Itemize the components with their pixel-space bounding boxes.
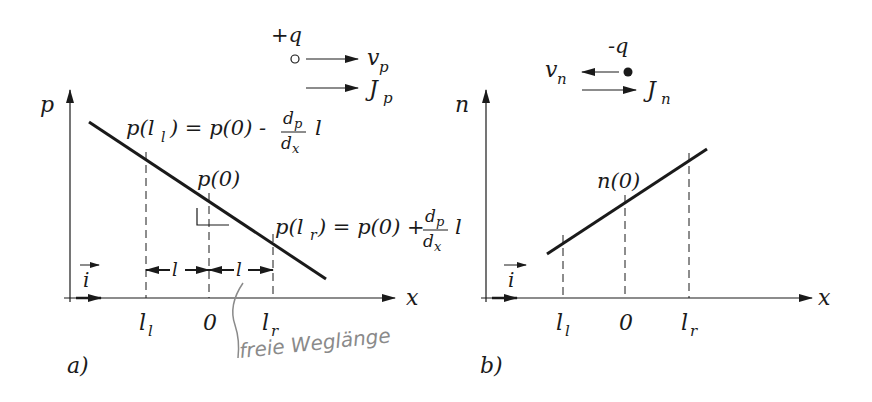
x-axis-label-a: x xyxy=(406,285,419,310)
svg-text:) = p(0) +: ) = p(0) + xyxy=(317,215,425,239)
panel-a: p x i l l l l 0 l xyxy=(40,23,462,378)
equation-right: p(l r ) = p(0) + d p d x l xyxy=(275,206,462,254)
svg-text:d: d xyxy=(423,231,434,251)
svg-text:l: l xyxy=(681,310,688,335)
hole-carrier: +q v p J p xyxy=(271,23,393,107)
hole-icon xyxy=(291,55,299,63)
electron-carrier: -q v n J n xyxy=(545,34,671,108)
svg-text:p: p xyxy=(379,58,389,76)
svg-text:) = p(0) -: ) = p(0) - xyxy=(169,116,266,140)
svg-text:l: l xyxy=(172,259,178,280)
svg-text:n: n xyxy=(557,70,567,88)
svg-text:n: n xyxy=(661,90,671,108)
svg-text:p: p xyxy=(383,89,393,107)
handwritten-note: freie Weglänge xyxy=(233,283,392,363)
p-axis-label: p xyxy=(40,92,54,117)
equation-left: p(l l ) = p(0) - d p d x l xyxy=(126,108,322,156)
svg-text:l: l xyxy=(262,310,269,335)
tick-ll-b: l l xyxy=(556,310,570,340)
svg-text:J: J xyxy=(643,77,657,102)
svg-text:p(l: p(l xyxy=(275,215,303,239)
svg-text:d: d xyxy=(425,206,436,226)
charge-label-plus: +q xyxy=(271,23,302,47)
x-axis-label-b: x xyxy=(818,285,831,310)
caption-b: b) xyxy=(480,353,503,378)
svg-text:l: l xyxy=(455,215,462,239)
tick-0-a: 0 xyxy=(203,310,217,335)
unit-vector-label-b: i xyxy=(508,268,514,292)
svg-text:l: l xyxy=(139,310,146,335)
svg-text:p(l: p(l xyxy=(126,116,154,140)
svg-text:r: r xyxy=(690,322,698,340)
svg-text:d: d xyxy=(283,108,294,128)
svg-text:x: x xyxy=(292,141,300,156)
svg-text:x: x xyxy=(434,239,442,254)
svg-text:r: r xyxy=(310,227,318,243)
diffusion-diagram: p x i l l l l 0 l xyxy=(0,0,872,402)
svg-text:l: l xyxy=(315,116,322,140)
caption-a: a) xyxy=(67,353,89,378)
charge-label-minus: -q xyxy=(608,34,629,58)
svg-text:p: p xyxy=(294,116,303,131)
n-axis-label: n xyxy=(455,92,469,117)
center-label-a: p(0) xyxy=(197,167,240,191)
svg-text:p: p xyxy=(436,214,445,229)
n-profile-line xyxy=(547,149,707,254)
svg-text:l: l xyxy=(236,259,242,280)
svg-text:J: J xyxy=(365,76,379,101)
tick-lr-b: l r xyxy=(681,310,698,340)
panel-b: n x i n(0) l l 0 l r -q v n J n b) xyxy=(455,34,831,378)
span-left: l xyxy=(146,259,209,280)
svg-text:l: l xyxy=(556,310,563,335)
svg-text:l: l xyxy=(565,322,570,340)
electron-icon xyxy=(624,68,633,77)
tick-0-b: 0 xyxy=(619,310,633,335)
span-right: l xyxy=(209,259,273,280)
svg-text:l: l xyxy=(148,322,153,340)
unit-vector-label-a: i xyxy=(83,268,89,292)
tick-ll-a: l l xyxy=(139,310,153,340)
svg-text:d: d xyxy=(281,133,292,153)
svg-text:l: l xyxy=(161,129,165,145)
center-label-b: n(0) xyxy=(597,169,640,193)
